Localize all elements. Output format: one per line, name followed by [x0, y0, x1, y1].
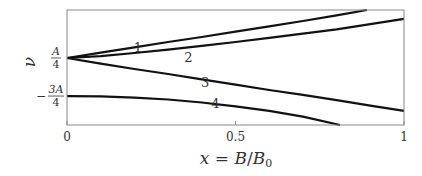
line-chart: 00.51 A43A4− 1234 ν x = B/B0: [0, 0, 422, 176]
curve-label-4: 4: [211, 96, 219, 111]
svg-text:3A: 3A: [49, 83, 64, 96]
y-axis-ticks: A43A4−: [36, 45, 64, 109]
curve-label-1: 1: [134, 40, 142, 55]
svg-text:A: A: [51, 45, 60, 58]
curve-label-3: 3: [201, 75, 209, 90]
curve-4: [67, 96, 340, 125]
svg-text:4: 4: [53, 58, 60, 71]
curves: [67, 10, 404, 125]
svg-text:4: 4: [53, 96, 60, 109]
y-tick-label: A4: [51, 45, 61, 71]
x-tick-label: 0.5: [226, 130, 245, 144]
x-tick-label: 0: [63, 130, 71, 144]
y-tick-label: 3A4−: [36, 83, 64, 109]
x-axis-label: x = B/B0: [200, 148, 272, 170]
x-axis-ticks: 00.51: [63, 121, 408, 144]
curve-label-2: 2: [184, 50, 192, 65]
svg-text:−: −: [36, 89, 46, 103]
x-tick-label: 1: [400, 130, 408, 144]
curve-2: [67, 19, 404, 58]
curve-1: [67, 10, 367, 58]
y-axis-label: ν: [19, 57, 39, 67]
curve-3: [67, 58, 404, 111]
